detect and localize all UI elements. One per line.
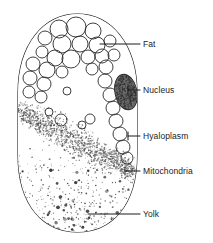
label-hyaloplasm: Hyaloplasm — [143, 132, 188, 141]
label-yolk: Yolk — [143, 210, 159, 219]
cell-diagram-figure: Fat Nucleus Hyaloplasm Mitochondria Yolk — [0, 0, 213, 243]
label-fat: Fat — [143, 40, 156, 49]
label-nucleus: Nucleus — [143, 86, 174, 95]
label-mitochondria: Mitochondria — [143, 167, 193, 176]
cell-diagram-svg — [0, 0, 213, 243]
hyaloplasm-region — [18, 14, 137, 232]
